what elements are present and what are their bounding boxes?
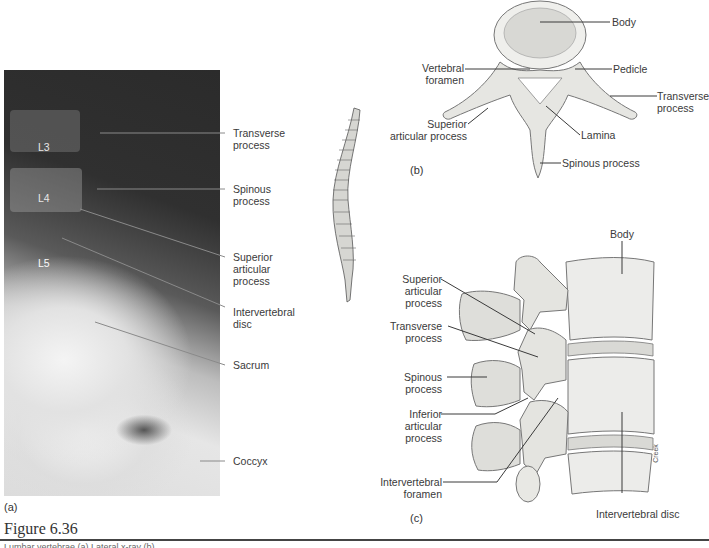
label-line: process xyxy=(233,139,285,151)
label-superior-articular-process-a: Superior articular process xyxy=(233,251,273,287)
label-vertebral-foramen: Vertebral foramen xyxy=(416,62,464,86)
panel-c-leader-lines xyxy=(441,241,622,493)
panel-letter-b: (b) xyxy=(410,164,423,176)
panel-letter-c: (c) xyxy=(410,512,423,524)
label-line: Transverse xyxy=(657,90,709,102)
label-line: Vertebral xyxy=(416,62,464,74)
label-line: foramen xyxy=(370,488,442,500)
label-line: process xyxy=(400,432,442,444)
label-line: process xyxy=(400,383,442,395)
label-line: Transverse xyxy=(390,320,442,332)
label-line: Intervertebral xyxy=(233,306,295,318)
label-superior-articular-process-b: Superior articular process xyxy=(385,118,467,142)
label-line: articular xyxy=(400,285,442,297)
figure-caption-partial: Lumbar vertebrae (a) Lateral x-ray (b) xyxy=(4,542,709,548)
label-line: process xyxy=(390,332,442,344)
label-intervertebral-foramen: Intervertebral foramen xyxy=(370,476,442,500)
panel-letter-a: (a) xyxy=(4,501,17,513)
label-line: articular process xyxy=(385,130,467,142)
label-spinous-process-c: Spinous process xyxy=(400,371,442,395)
label-line: Spinous xyxy=(233,183,271,195)
label-line: foramen xyxy=(416,74,464,86)
label-transverse-process-c: Transverse process xyxy=(390,320,442,344)
label-body-b: Body xyxy=(612,16,636,28)
label-line: disc xyxy=(233,318,295,330)
label-line: Transverse xyxy=(233,127,285,139)
spine-illustration xyxy=(333,108,360,302)
label-pedicle: Pedicle xyxy=(613,63,647,75)
label-intervertebral-disc-a: Intervertebral disc xyxy=(233,306,295,330)
label-line: process xyxy=(657,102,709,114)
title-rule xyxy=(0,539,709,541)
label-sacrum: Sacrum xyxy=(233,359,269,371)
label-line: Inferior xyxy=(400,408,442,420)
tag-l4: L4 xyxy=(38,192,50,204)
panel-b-leader-lines xyxy=(465,22,657,163)
label-spinous-process-b: Spinous process xyxy=(562,157,640,169)
label-line: articular xyxy=(400,420,442,432)
label-superior-articular-process-c: Superior articular process xyxy=(400,273,442,309)
tag-l5: L5 xyxy=(38,257,50,269)
vertebra-l4-shadow xyxy=(10,168,82,212)
label-inferior-articular-process: Inferior articular process xyxy=(400,408,442,444)
label-spinous-process-a: Spinous process xyxy=(233,183,271,207)
tag-l3: L3 xyxy=(38,141,50,153)
label-line: process xyxy=(233,275,273,287)
label-body-c: Body xyxy=(610,228,634,240)
artist-credit: Creek xyxy=(652,444,659,463)
vertebrae-lateral-view xyxy=(459,256,654,502)
xray-image: L3 L4 L5 xyxy=(4,70,220,496)
label-line: Superior xyxy=(233,251,273,263)
figure-title: Figure 6.36 xyxy=(4,520,78,538)
label-line: Superior xyxy=(385,118,467,130)
label-transverse-process-b: Transverse process xyxy=(657,90,709,114)
label-transverse-process-a: Transverse process xyxy=(233,127,285,151)
label-line: articular xyxy=(233,263,273,275)
label-intervertebral-disc-c: Intervertebral disc xyxy=(596,508,679,520)
label-lamina: Lamina xyxy=(581,129,615,141)
vertebra-superior-view xyxy=(443,1,637,178)
label-line: process xyxy=(400,297,442,309)
label-coccyx: Coccyx xyxy=(233,455,267,467)
label-line: Intervertebral xyxy=(370,476,442,488)
label-line: process xyxy=(233,195,271,207)
label-line: Superior xyxy=(400,273,442,285)
label-line: Spinous xyxy=(400,371,442,383)
